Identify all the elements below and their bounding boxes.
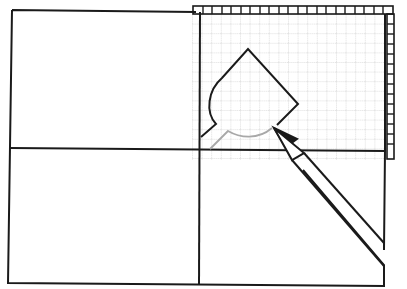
pencil-body-left bbox=[292, 160, 384, 266]
illustration-svg bbox=[0, 0, 407, 289]
grid-top-border bbox=[193, 6, 393, 14]
vertical-fold-line bbox=[199, 12, 200, 285]
illustration-canvas: Line drawing: a sheet divided into four … bbox=[0, 0, 407, 289]
pencil-body-right bbox=[304, 153, 384, 243]
grid-right-border bbox=[387, 14, 394, 159]
sheet-right-edge bbox=[384, 14, 385, 250]
